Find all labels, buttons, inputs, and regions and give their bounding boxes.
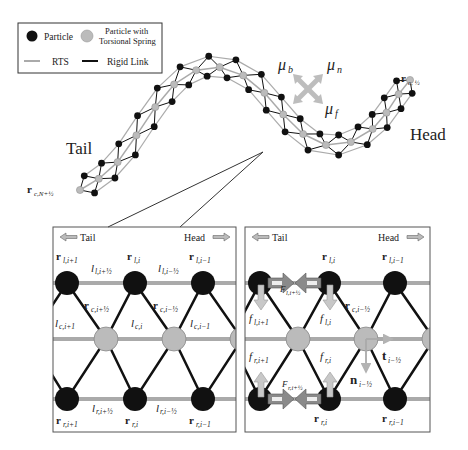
right-tail-label: Tail [272,232,288,243]
svg-text:r: r [314,412,319,424]
svg-text:r: r [345,299,350,311]
svg-text:c,N+½: c,N+½ [34,190,54,198]
svg-text:l,i: l,i [329,256,335,265]
svg-text:μ: μ [324,100,333,118]
right-head-label: Head [378,232,399,243]
worm-model-diagram: Particle Particle with Torsional Spring … [0,0,468,450]
legend-rts-label: RTS [52,57,69,67]
svg-text:μ: μ [277,56,286,74]
legend-torsional-line1: Particle with [105,26,149,36]
head-arrow-icon [407,233,424,241]
svg-text:i−½: i−½ [359,380,372,389]
svg-text:r: r [127,250,132,262]
svg-text:r,i: r,i [132,420,138,429]
left-head-label: Head [184,232,205,243]
svg-text:r: r [401,72,406,84]
svg-text:r: r [189,414,194,426]
head-label: Head [410,125,446,144]
tail-point-label: r c,N+½ [27,183,54,198]
svg-text:μ: μ [326,56,335,74]
legend: Particle Particle with Torsional Spring … [18,23,162,73]
svg-text:l,i+½: l,i+½ [286,289,301,296]
svg-text:l,i: l,i [134,256,140,265]
svg-text:l: l [158,262,161,274]
svg-text:r: r [382,412,387,424]
left-detail-panel: Tail Head r l,i+1 r l,i r l,i−1 l l,i+½ … [30,227,254,432]
mu-n-label: μ n [326,56,342,75]
svg-text:r,i+1: r,i+1 [254,356,269,365]
svg-text:r: r [84,299,89,311]
svg-text:r,i: r,i [325,356,331,365]
svg-text:c,i+½: c,i+½ [91,305,109,314]
torsional-particle-icon [81,30,93,42]
svg-text:r,i−1: r,i−1 [196,420,211,429]
svg-text:r: r [153,299,158,311]
legend-particle-label: Particle [44,32,73,42]
svg-text:r: r [125,414,130,426]
svg-text:r: r [382,250,387,262]
zoom-line-left [108,152,263,227]
svg-text:c,i−½: c,i−½ [352,305,370,314]
svg-text:l,i−½: l,i−½ [162,267,179,276]
svg-text:f: f [335,108,339,119]
svg-text:r: r [56,414,61,426]
svg-text:l,i−1: l,i−1 [389,256,404,265]
worm-body [76,53,415,196]
svg-text:F: F [281,379,288,389]
tangent-label: t [382,348,387,363]
svg-text:n: n [337,64,342,75]
svg-text:l: l [92,402,95,414]
particle-icon [27,31,38,42]
svg-text:l,i+1: l,i+1 [254,318,269,327]
mu-b-label: μ b [277,56,293,75]
svg-text:r,i+½: r,i+½ [288,384,303,391]
svg-text:r: r [56,250,61,262]
mu-f-label: μ f [324,100,339,119]
svg-text:c,i−½: c,i−½ [160,305,178,314]
right-detail-panel: Tail Head r l,i r l,i−1 r c,i−½ F l,i+½ … [230,227,446,432]
svg-text:r,i−½: r,i−½ [160,407,177,416]
svg-text:l: l [91,262,94,274]
legend-torsional-line2: Torsional Spring [99,36,157,46]
svg-text:r,i−1: r,i−1 [389,418,404,427]
zoom-line-right [180,152,263,227]
svg-text:r,i: r,i [321,418,327,427]
svg-text:c,i+1: c,i+1 [59,322,75,331]
svg-text:l: l [156,402,159,414]
svg-text:F: F [279,284,286,294]
head-point-label: r c, ½ [401,72,421,87]
head-arrow-icon [213,233,230,241]
svg-text:r: r [322,250,327,262]
svg-text:l: l [55,317,58,329]
svg-text:l,i+1: l,i+1 [63,256,78,265]
svg-text:l: l [190,317,193,329]
friction-direction-icon [293,74,323,104]
svg-text:r: r [27,183,32,195]
tail-label: Tail [66,139,92,158]
svg-text:l,i: l,i [325,318,331,327]
svg-text:c,i: c,i [135,322,142,331]
svg-text:r,i+½: r,i+½ [96,407,113,416]
svg-text:l,i+½: l,i+½ [95,267,112,276]
svg-text:c,i−1: c,i−1 [194,322,210,331]
tail-arrow-icon [252,233,269,241]
svg-text:r: r [189,250,194,262]
svg-text:b: b [288,64,293,75]
svg-text:c, ½: c, ½ [408,79,421,87]
tail-arrow-icon [60,233,77,241]
normal-label: n [350,372,358,387]
legend-rigid-link-label: Rigid Link [107,57,149,67]
svg-text:r,i+1: r,i+1 [63,420,78,429]
svg-text:l: l [131,317,134,329]
left-tail-label: Tail [80,232,96,243]
svg-text:i−½: i−½ [388,356,401,365]
svg-text:l,i−1: l,i−1 [196,256,211,265]
